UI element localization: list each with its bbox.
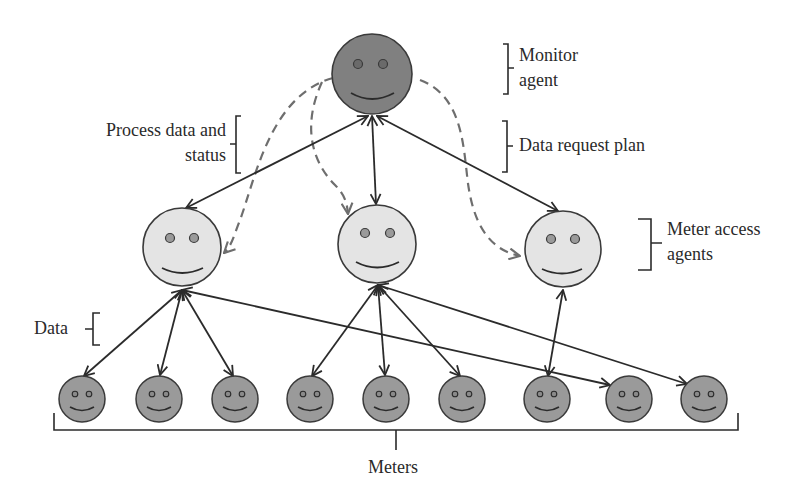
- access-agent-3: [525, 211, 601, 287]
- bracket-monitor: [503, 44, 514, 94]
- label-monitor-line2: agent: [519, 68, 578, 93]
- meter-9: [681, 376, 727, 422]
- access-agent-1: [143, 208, 221, 286]
- label-process-line2: status: [106, 143, 226, 168]
- eye-icon: [379, 60, 388, 69]
- label-meter-access-agents: Meter access agents: [667, 217, 760, 267]
- access-agent-2: [338, 205, 416, 283]
- bracket-meter-access: [638, 219, 662, 270]
- label-process-data: Process data and status: [106, 118, 226, 168]
- label-monitor-agent: Monitor agent: [519, 43, 578, 93]
- meter-1: [59, 376, 105, 422]
- label-meters: Meters: [368, 455, 418, 480]
- dashed-arc-to-access-1: [224, 78, 333, 253]
- label-monitor-line1: Monitor: [519, 43, 578, 68]
- meter-8: [606, 376, 652, 422]
- eye-icon: [354, 60, 363, 69]
- meter-row: [59, 376, 727, 422]
- meter-5: [363, 376, 409, 422]
- monitor-links: [186, 116, 558, 211]
- meter-4: [287, 376, 333, 422]
- label-process-line1: Process data and: [106, 118, 226, 143]
- bracket-data-request: [502, 121, 513, 172]
- meter-3: [212, 376, 258, 422]
- bracket-process: [230, 116, 241, 173]
- dashed-arc-to-access-3: [420, 80, 520, 256]
- label-data: Data: [34, 316, 68, 341]
- bracket-data: [85, 313, 100, 345]
- label-meter-access-line1: Meter access: [667, 217, 760, 242]
- meter-links: [84, 285, 687, 385]
- meter-2: [136, 376, 182, 422]
- meter-7: [524, 376, 570, 422]
- label-data-request-plan: Data request plan: [519, 133, 645, 158]
- label-meter-access-line2: agents: [667, 242, 760, 267]
- monitor-agent: [332, 34, 412, 114]
- meter-6: [439, 376, 485, 422]
